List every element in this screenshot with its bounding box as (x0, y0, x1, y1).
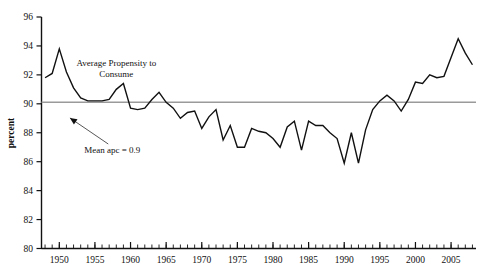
x-tick-label: 1995 (370, 255, 389, 265)
x-tick-label: 2005 (442, 255, 461, 265)
x-axis-minor-ticks (45, 245, 472, 249)
y-tick-label: 90 (24, 99, 34, 109)
x-tick-label: 1985 (299, 255, 318, 265)
series-label-line-1: Average Propensity to (76, 58, 156, 68)
x-tick-label: 1975 (228, 255, 247, 265)
y-axis-title: percent (6, 117, 16, 148)
x-tick-label: 1960 (121, 255, 140, 265)
y-tick-label: 80 (24, 244, 34, 254)
y-tick-label: 96 (24, 12, 34, 22)
y-tick-label: 86 (24, 157, 34, 167)
y-tick-label: 94 (24, 41, 34, 51)
y-tick-label: 82 (24, 215, 34, 225)
x-tick-label: 1955 (85, 255, 104, 265)
x-tick-label: 1990 (335, 255, 354, 265)
x-tick-label: 1980 (263, 255, 282, 265)
y-tick-label: 84 (24, 186, 34, 196)
x-tick-label: 1950 (50, 255, 69, 265)
x-tick-label: 2000 (406, 255, 425, 265)
chart-background (0, 0, 489, 280)
y-tick-label: 92 (24, 70, 34, 80)
chart-figure: 808284868890929496 percent 1950195519601… (0, 0, 489, 280)
y-tick-label: 88 (24, 128, 34, 138)
mean-label-text: Mean apc = 0.9 (84, 145, 141, 155)
x-tick-label: 1965 (157, 255, 176, 265)
series-label-line-2: Consume (99, 69, 133, 79)
y-axis-tick-labels: 808284868890929496 (24, 12, 34, 254)
x-tick-label: 1970 (192, 255, 211, 265)
chart-svg: 808284868890929496 percent 1950195519601… (0, 0, 489, 280)
